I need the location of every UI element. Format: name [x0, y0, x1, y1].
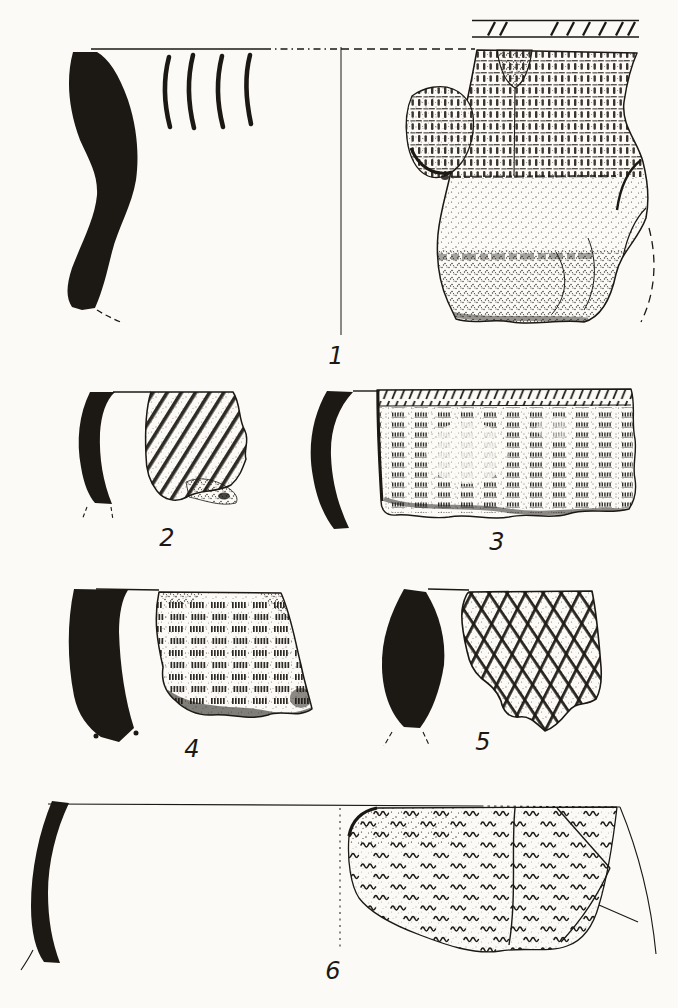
figure-label-4: 4 [184, 735, 199, 763]
figure-label-1: 1 [328, 342, 343, 370]
figure-1: 1 [68, 46, 661, 370]
rim-line-4 [96, 589, 159, 590]
figure-2: 2 [79, 392, 247, 552]
figure-6: 6 [21, 801, 656, 985]
sherd-3 [377, 388, 636, 518]
vessel-1-body [426, 46, 660, 326]
profile-5-base-dashes [384, 732, 429, 746]
rim-profile-section-5 [382, 589, 444, 728]
sherd-6 [347, 806, 638, 956]
figure-label-3: 3 [489, 528, 504, 556]
profile-2-base-dashes [82, 507, 113, 520]
rim-profile-section-4 [69, 589, 134, 742]
sherd-2-dark-blob [218, 493, 230, 500]
sherd-4 [155, 592, 315, 722]
pottery-plate-page: 1 2 [0, 0, 678, 1008]
comb-impression-detail-strokes [165, 55, 251, 128]
sherd-2 [146, 392, 247, 504]
profile-1-base-dashes [97, 310, 123, 323]
wall-projection-dashed [641, 228, 654, 322]
figure-5: 5 [382, 589, 601, 756]
rim-profile-section-2 [79, 392, 115, 504]
vessel-6-wall-outline [620, 807, 656, 954]
figure-3: 3 [311, 388, 636, 556]
sherd-5 [462, 591, 601, 731]
dark-band [433, 256, 596, 257]
legend-hatch-strokes [488, 22, 635, 36]
figure-label-5: 5 [475, 728, 490, 756]
rim-line-6 [48, 804, 481, 806]
figure-4: 4 [69, 589, 315, 763]
rim-profile-section-3 [311, 391, 353, 529]
figure-label-2: 2 [159, 524, 174, 552]
rim-profile-section-1 [68, 52, 138, 310]
flake-dark-blob [441, 174, 449, 180]
decoration-legend-band [472, 21, 639, 38]
rim-profile-section-6 [31, 801, 69, 963]
rim-line-5 [428, 589, 469, 590]
profile-6-tail [21, 950, 33, 970]
pottery-plate-figure: 1 2 [0, 0, 678, 1008]
figure-label-6: 6 [325, 957, 340, 985]
profile-4-tick-right [134, 731, 139, 736]
profile-4-tick-left [94, 734, 99, 739]
